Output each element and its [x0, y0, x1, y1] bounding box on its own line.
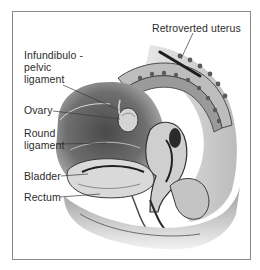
label-retroverted-uterus: Retroverted uterus [152, 23, 241, 34]
label-infundibulopelvic-line3: ligament [24, 74, 65, 85]
label-ovary: Ovary [24, 105, 53, 116]
label-round-ligament-line1: Round [24, 128, 55, 139]
label-rectum: Rectum [24, 192, 61, 203]
bladder-shape [67, 159, 154, 198]
label-round-ligament-line2: ligament [24, 140, 65, 151]
label-infundibulopelvic-line2: pelvic [24, 62, 51, 73]
label-bladder: Bladder [24, 171, 61, 182]
label-infundibulopelvic-line1: Infundibulo - [24, 50, 83, 61]
